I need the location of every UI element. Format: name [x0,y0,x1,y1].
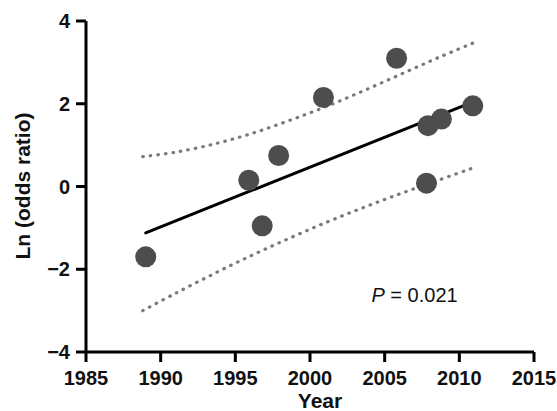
x-tick-label-1985: 1985 [64,367,109,389]
data-point [238,170,259,191]
data-point [386,48,407,69]
x-tick-label-2000: 2000 [288,367,333,389]
data-point [462,95,483,116]
y-tick-label--2: −2 [47,258,70,280]
x-axis-title: Year [298,389,342,411]
y-axis-title: Ln (odds ratio) [11,113,34,260]
y-tick-label-0: 0 [59,176,70,198]
p-value-annotation: P = 0.021 [371,284,457,306]
data-point [252,215,273,236]
p-value-number: = 0.021 [385,284,458,306]
y-tick-label--4: −4 [47,341,71,363]
data-point [431,109,452,130]
data-point [416,173,437,194]
data-point [135,246,156,267]
scatter-plot-figure: −4−2024 1985199019952000200520102015 Ln … [0,0,557,411]
figure-background [0,0,557,411]
p-value-symbol: P [371,284,385,306]
y-tick-label-4: 4 [59,10,71,32]
x-tick-label-2010: 2010 [437,367,482,389]
data-point [313,87,334,108]
x-tick-label-1995: 1995 [213,367,258,389]
x-tick-label-1990: 1990 [138,367,183,389]
y-tick-label-2: 2 [59,93,70,115]
x-tick-label-2005: 2005 [362,367,407,389]
x-tick-label-2015: 2015 [512,367,557,389]
data-point [268,145,289,166]
